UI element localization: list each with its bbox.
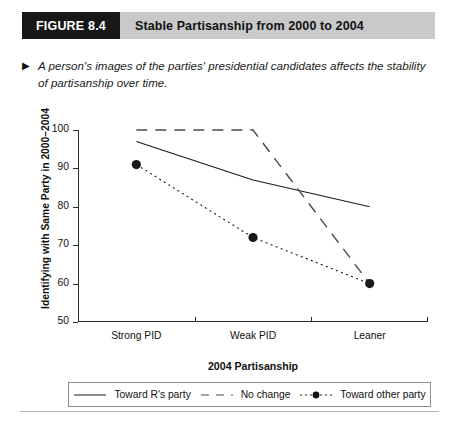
series-line-toward-r-s-party — [136, 142, 369, 207]
legend-item-toward-other-party: Toward other party — [299, 389, 425, 400]
x-axis-tick — [311, 317, 312, 322]
figure-caption: ▶ A person's images of the parties' pres… — [22, 58, 437, 92]
y-axis-tick-label: 90 — [58, 161, 69, 172]
x-axis-title: 2004 Partisanship — [78, 360, 428, 372]
y-axis-tick-label: 100 — [52, 123, 69, 134]
series-lines — [78, 130, 428, 322]
x-axis-category-label: Strong PID — [111, 330, 161, 341]
legend-label-toward-r-party: Toward R's party — [114, 389, 190, 400]
y-axis-tick: 90 — [73, 168, 78, 169]
dashed-line-swatch — [200, 390, 234, 400]
x-axis-category-label: Leaner — [354, 330, 386, 341]
y-axis-tick: 70 — [73, 245, 78, 246]
y-axis-title: Identifying with Same Party in 2000–2004 — [40, 101, 51, 316]
series-line-toward-other-party — [136, 165, 369, 284]
data-point-marker — [248, 233, 257, 242]
figure-header: FIGURE 8.4 Stable Partisanship from 2000… — [22, 12, 435, 39]
x-axis-tick — [195, 317, 196, 322]
data-point-marker — [365, 279, 374, 288]
y-axis-tick: 50 — [73, 322, 78, 323]
y-axis-tick: 60 — [73, 284, 78, 285]
bottom-divider — [20, 411, 439, 412]
legend-item-toward-r-party: Toward R's party — [73, 389, 190, 400]
chart-legend: Toward R's party No change Toward other … — [68, 382, 431, 407]
x-axis-tick — [427, 317, 428, 322]
chart-container: Identifying with Same Party in 2000–2004… — [0, 105, 459, 400]
x-axis-category-label: Weak PID — [230, 330, 276, 341]
legend-label-no-change: No change — [241, 389, 291, 400]
figure-title: Stable Partisanship from 2000 to 2004 — [120, 12, 435, 39]
plot-area: 5060708090100Strong PIDWeak PIDLeaner — [78, 130, 428, 322]
figure-number-tag: FIGURE 8.4 — [22, 12, 120, 39]
data-point-marker — [132, 160, 141, 169]
legend-item-no-change: No change — [200, 389, 291, 400]
y-axis-tick-label: 50 — [58, 315, 69, 326]
solid-line-swatch — [73, 390, 107, 400]
y-axis-tick: 100 — [73, 130, 78, 131]
y-axis-tick-label: 70 — [58, 238, 69, 249]
legend-label-toward-other-party: Toward other party — [340, 389, 425, 400]
dotted-line-marker-swatch — [299, 390, 333, 400]
y-axis-tick: 80 — [73, 207, 78, 208]
caption-text: A person's images of the parties' presid… — [38, 58, 437, 92]
y-axis-tick-label: 80 — [58, 200, 69, 211]
y-axis-tick-label: 60 — [58, 277, 69, 288]
triangle-bullet-icon: ▶ — [22, 58, 30, 92]
